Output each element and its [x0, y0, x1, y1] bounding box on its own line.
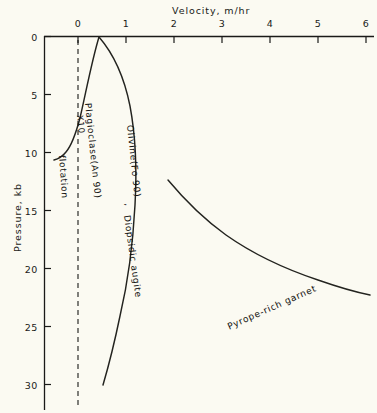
x-tick-marks [78, 37, 366, 44]
y-tick-label-10: 10 [25, 147, 38, 158]
curve-label-plagioclase-x10: X10 [75, 114, 87, 134]
x-tick-label-3: 3 [219, 18, 226, 29]
y-tick-label-15: 15 [25, 205, 38, 216]
y-tick-label-20: 20 [25, 263, 38, 274]
velocity-pressure-chart [0, 0, 377, 413]
curve-olivine-diopsidic-augite [99, 37, 136, 385]
x-tick-label-2: 2 [171, 18, 178, 29]
x-tick-label-0: 0 [75, 18, 82, 29]
y-tick-label-25: 25 [25, 321, 38, 332]
x-tick-label-4: 4 [267, 18, 274, 29]
y-tick-label-0: 0 [31, 31, 38, 42]
x-tick-label-1: 1 [123, 18, 130, 29]
x-tick-label-6: 6 [363, 18, 370, 29]
y-tick-marks [45, 37, 52, 385]
x-tick-label-5: 5 [315, 18, 322, 29]
y-tick-label-5: 5 [31, 89, 38, 100]
y-tick-label-30: 30 [25, 379, 38, 390]
y-axis-title: Pressure, kb [12, 183, 23, 252]
curve-pyrope-rich-garnet [168, 180, 370, 295]
x-axis-title: Velocity, m/hr [172, 5, 250, 16]
